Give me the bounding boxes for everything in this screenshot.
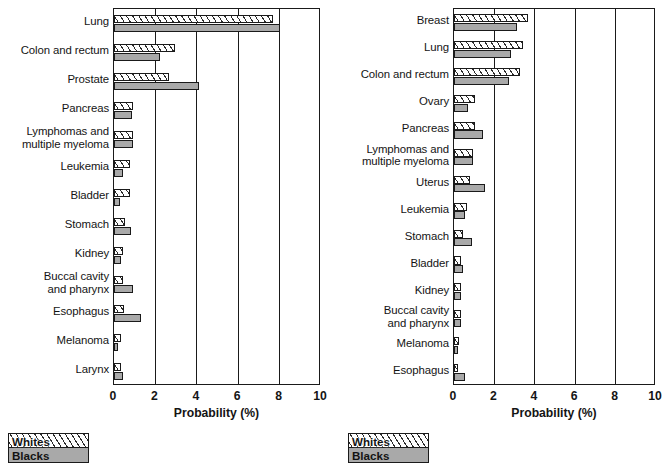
bar-whites [454,149,473,157]
x-axis-tick-label: 6 [571,389,578,403]
y-axis-label: Buccal cavity and pharynx [1,270,109,295]
y-axis-label: Lymphomas and multiple myeloma [333,143,449,168]
y-axis-label: Esophagus [333,364,449,376]
legend-right: Whites Blacks [348,433,429,463]
bar-blacks [454,373,465,381]
bar-whites [114,102,133,111]
bar-blacks [454,104,468,112]
legend-swatch-whites: Whites [348,433,429,448]
legend-label-whites: Whites [352,434,390,447]
bar-whites [454,203,467,211]
y-axis-label: Breast [333,14,449,26]
bar-whites [114,247,123,256]
bar-whites [114,189,130,198]
bar-blacks [114,24,280,33]
bar-blacks [454,346,458,354]
legend-left: Whites Blacks [8,433,89,463]
bar-blacks [114,372,123,381]
bar-whites [114,131,133,140]
y-axis-label: Stomach [333,230,449,242]
bar-whites [114,305,124,314]
bar-rows-right [454,9,654,384]
y-axis-label: Melanoma [333,337,449,349]
legend-swatch-blacks: Blacks [348,448,429,463]
bar-whites [114,73,169,82]
chart-panel-right: BreastLungColon and rectumOvaryPancreasL… [331,0,661,476]
y-axis-label: Melanoma [1,334,109,346]
y-axis-label: Stomach [1,218,109,230]
bar-blacks [454,319,461,327]
y-axis-label: Leukemia [1,160,109,172]
y-axis-label: Lung [1,15,109,27]
bar-whites [454,310,461,318]
bar-whites [114,44,175,53]
x-axis-tick-label: 8 [611,389,618,403]
bar-whites [454,68,520,76]
bar-whites [454,122,475,130]
y-axis-label: Colon and rectum [333,68,449,80]
bar-blacks [454,292,461,300]
y-axis-label: Prostate [1,73,109,85]
y-axis-label: Buccal cavity and pharynx [333,304,449,329]
x-axis-tick-label: 2 [490,389,497,403]
bar-whites [454,337,459,345]
bar-whites [454,283,461,291]
x-axis-tick-label: 10 [313,389,327,403]
x-axis-tick-label: 8 [275,389,282,403]
plot-area-right [453,8,655,385]
bar-blacks [454,265,463,273]
x-axis-title-right: Probability (%) [331,406,666,420]
plot-area-left [113,8,320,385]
y-axis-label: Pancreas [333,122,449,134]
y-axis-label: Lung [333,41,449,53]
bar-blacks [114,53,160,62]
bar-blacks [454,23,517,31]
bar-blacks [454,157,473,165]
y-axis-label: Kidney [333,284,449,296]
bar-whites [114,276,123,285]
y-axis-label: Leukemia [333,203,449,215]
legend-label-whites: Whites [12,434,50,447]
bar-blacks [114,227,131,236]
bar-blacks [454,238,472,246]
x-axis-tick-label: 6 [234,389,241,403]
x-axis-tick-label: 4 [192,389,199,403]
legend-label-blacks: Blacks [12,449,49,462]
bar-whites [114,363,121,372]
x-axis-tick-label: 0 [450,389,457,403]
x-axis-tick-label: 4 [530,389,537,403]
legend-swatch-blacks: Blacks [8,448,89,463]
legend-label-blacks: Blacks [352,449,389,462]
bar-whites [454,364,458,372]
y-axis-label: Bladder [1,189,109,201]
bar-whites [454,95,475,103]
bar-whites [454,14,528,22]
bar-blacks [114,314,141,323]
y-axis-label: Larynx [1,363,109,375]
bar-blacks [114,82,199,91]
bar-whites [454,176,470,184]
y-axis-label: Pancreas [1,102,109,114]
y-axis-label: Ovary [333,95,449,107]
bar-whites [454,230,463,238]
bar-blacks [114,140,133,149]
x-axis-tick-label: 0 [110,389,117,403]
y-axis-label: Lymphomas and multiple myeloma [1,125,109,150]
x-axis-tick-label: 2 [151,389,158,403]
bar-blacks [454,130,483,138]
bar-blacks [114,285,133,294]
bar-blacks [114,198,120,207]
y-axis-label: Uterus [333,176,449,188]
legend-swatch-whites: Whites [8,433,89,448]
chart-panel-left: LungColon and rectumProstatePancreasLymp… [0,0,330,476]
bar-whites [114,15,273,24]
y-axis-label: Colon and rectum [1,44,109,56]
bar-blacks [114,256,121,265]
bar-whites [454,256,461,264]
bar-blacks [454,50,511,58]
y-axis-label: Bladder [333,257,449,269]
bar-blacks [114,343,118,352]
bar-whites [114,218,125,227]
bar-rows-left [114,9,319,384]
